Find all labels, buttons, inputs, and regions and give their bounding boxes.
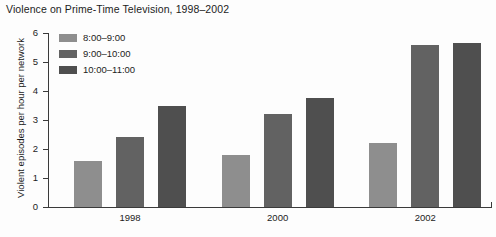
y-tick-label: 6 [14,27,38,38]
y-tick-label: 0 [14,201,38,212]
x-axis-line [48,207,492,208]
y-tick-label: 5 [14,56,38,67]
bar [453,43,481,207]
y-tick-label: 4 [14,85,38,96]
chart-title: Violence on Prime-Time Television, 1998–… [6,3,229,15]
bar [222,155,250,207]
y-tick-label: 1 [14,172,38,183]
x-tick-label: 2000 [238,212,318,223]
legend-item: 8:00–9:00 [59,31,135,44]
bar [306,98,334,207]
bar [158,106,186,208]
y-tick-label: 2 [14,143,38,154]
bar [264,114,292,207]
legend-item: 9:00–10:00 [59,47,135,60]
chart-figure: Violence on Prime-Time Television, 1998–… [0,0,496,237]
bar [411,45,439,207]
legend-label: 10:00–11:00 [83,64,135,75]
bar [116,137,144,207]
legend-label: 8:00–9:00 [83,32,125,43]
x-tick-label: 1998 [90,212,170,223]
chart-legend: 8:00–9:009:00–10:0010:00–11:00 [59,31,135,79]
legend-swatch [59,34,77,42]
legend-item: 10:00–11:00 [59,63,135,76]
legend-swatch [59,66,77,74]
bar [74,161,102,207]
legend-swatch [59,50,77,58]
bar-group [369,33,481,207]
y-tick-label: 3 [14,114,38,125]
x-tick-label: 2002 [385,212,465,223]
bar [369,143,397,207]
bar-group [222,33,334,207]
legend-label: 9:00–10:00 [83,48,131,59]
